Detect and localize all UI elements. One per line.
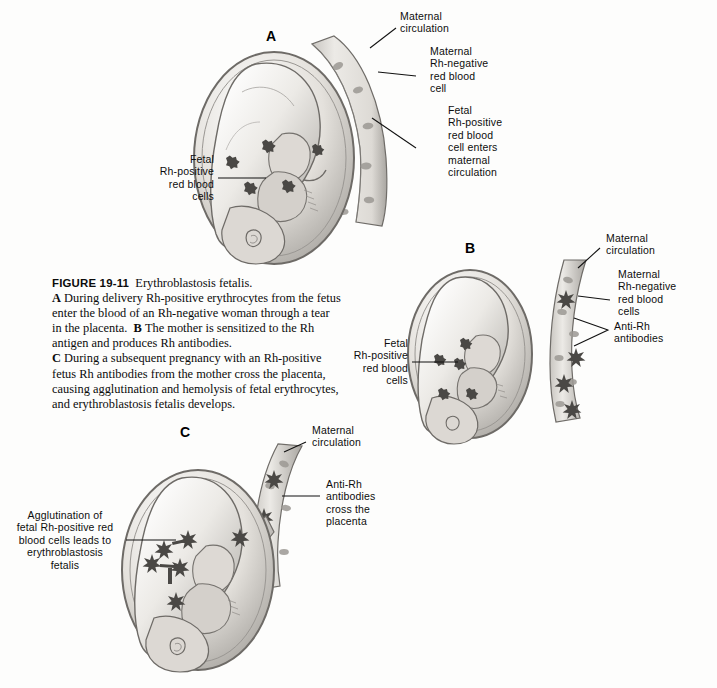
label-a-maternal-circulation: Maternal circulation [400,10,490,35]
panel-letter-c: C [180,424,190,440]
panel-letter-a: A [266,28,276,44]
panel-b-illustration [404,258,624,448]
maternal-vessel-b [550,260,586,422]
label-b-maternal-circulation: Maternal circulation [606,232,696,257]
label-b-anti-rh-antibodies: Anti-Rh antibodies [614,320,709,345]
label-c-agglutination: Agglutination of fetal Rh-positive red b… [6,509,124,571]
caption-marker-c: C [52,351,61,365]
label-a-fetal-rh-positive-enters: Fetal Rh-positive red blood cell enters … [448,104,542,178]
figure-caption: FIGURE 19-11 Erythroblastosis fetalis. A… [52,276,342,412]
figure-illustration: A B C Maternal circulation Maternal Rh-n… [0,0,717,688]
label-a-maternal-rh-negative-rbc: Maternal Rh-negative red blood cell [430,45,522,95]
label-b-maternal-rh-negative-rbc: Maternal Rh-negative red blood cells [618,268,713,318]
caption-marker-b: B [134,321,142,335]
label-c-anti-rh-cross-placenta: Anti-Rh antibodies cross the placenta [326,478,412,528]
label-c-maternal-circulation: Maternal circulation [312,424,402,449]
panel-a-illustration [186,30,466,280]
panel-letter-b: B [465,240,475,256]
caption-text-c: During a subsequent pregnancy with an Rh… [52,351,339,410]
caption-marker-a: A [52,291,61,305]
figure-number: FIGURE 19-11 [52,277,129,289]
figure-title: Erythroblastosis fetalis. [135,276,252,290]
label-a-fetal-rh-positive-cells: Fetal Rh-positive red blood cells [122,153,214,203]
